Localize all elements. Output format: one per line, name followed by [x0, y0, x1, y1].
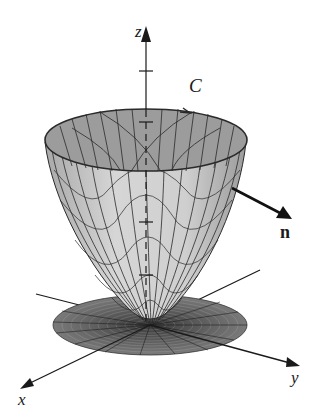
normal-vector	[232, 188, 292, 219]
z-axis-label: z	[135, 22, 142, 42]
diagram-canvas: z C n x y	[0, 0, 332, 418]
x-axis-label: x	[18, 390, 26, 410]
normal-n-label: n	[280, 222, 290, 243]
curve-c-label: C	[189, 75, 202, 97]
paraboloid-figure	[0, 0, 332, 418]
y-axis-label: y	[291, 368, 299, 388]
